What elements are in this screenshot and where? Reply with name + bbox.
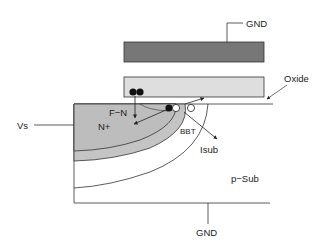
control-gate <box>124 42 264 62</box>
flash-cell-diagram: GND Vs GND Oxide F−N N+ BBT Isub p−Sub <box>0 0 327 247</box>
vs-label: Vs <box>17 120 28 131</box>
oxide-label: Oxide <box>284 73 309 84</box>
hole-icon <box>172 104 179 111</box>
fn-label: F−N <box>109 107 127 118</box>
electron-icon <box>129 88 136 95</box>
hole-icon <box>187 104 194 111</box>
gnd-top-label: GND <box>246 18 267 29</box>
control-gate-gnd-lead <box>227 23 243 42</box>
hot-hole-injection-arrow <box>185 98 204 104</box>
isub-label: Isub <box>200 144 218 155</box>
bbt-label: BBT <box>180 127 196 136</box>
floating-gate <box>124 77 264 97</box>
n-plus-label: N+ <box>98 121 111 132</box>
electron-icon <box>165 104 172 111</box>
oxide-arrow <box>267 85 287 99</box>
electron-icon <box>136 88 143 95</box>
p-sub-label: p−Sub <box>231 173 259 184</box>
gnd-bottom-label: GND <box>196 227 217 238</box>
